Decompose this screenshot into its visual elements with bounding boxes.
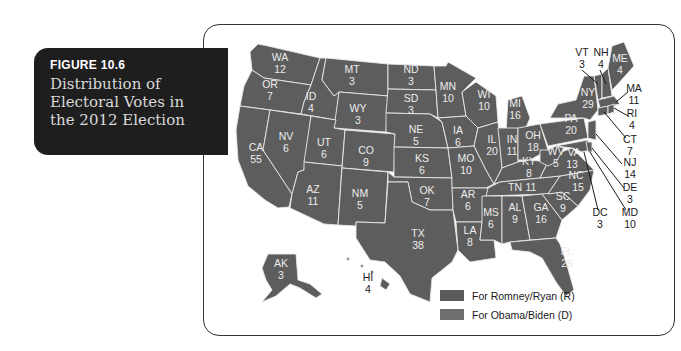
- svg-text:3: 3: [579, 58, 585, 70]
- svg-text:VA: VA: [567, 146, 580, 158]
- state-hi-island: [361, 265, 364, 268]
- svg-text:3: 3: [597, 218, 603, 230]
- svg-text:MD: MD: [622, 206, 639, 218]
- svg-text:UT: UT: [317, 136, 332, 148]
- svg-text:MT: MT: [344, 63, 360, 75]
- svg-text:12: 12: [274, 63, 286, 75]
- state-ri: [608, 104, 614, 114]
- svg-text:NY: NY: [581, 86, 596, 98]
- svg-text:FL: FL: [561, 245, 573, 257]
- svg-text:KS: KS: [415, 152, 429, 164]
- svg-text:NH: NH: [593, 46, 608, 58]
- svg-text:8: 8: [526, 167, 532, 179]
- legend-swatch-republican: [440, 290, 464, 301]
- svg-text:ME: ME: [612, 52, 628, 64]
- svg-text:HI: HI: [363, 271, 374, 283]
- svg-text:MI: MI: [509, 97, 521, 109]
- svg-text:CO: CO: [358, 144, 374, 156]
- svg-text:MS: MS: [483, 206, 499, 218]
- svg-text:3: 3: [355, 114, 361, 126]
- svg-text:13: 13: [566, 158, 578, 170]
- svg-text:LA: LA: [464, 224, 477, 236]
- svg-text:DC: DC: [592, 206, 608, 218]
- legend-item-romney: For Romney/Ryan (R): [440, 286, 575, 305]
- svg-text:CA: CA: [249, 141, 264, 153]
- svg-text:4: 4: [617, 64, 623, 76]
- svg-text:11: 11: [507, 145, 518, 157]
- svg-text:20: 20: [565, 124, 577, 136]
- svg-text:10: 10: [460, 164, 472, 176]
- svg-text:IA: IA: [453, 124, 463, 136]
- leader-line-de: [592, 148, 624, 188]
- svg-text:IN: IN: [507, 133, 518, 145]
- svg-text:6: 6: [455, 136, 461, 148]
- svg-text:GA: GA: [533, 201, 548, 213]
- svg-text:3: 3: [278, 269, 284, 281]
- svg-text:MN: MN: [440, 80, 456, 92]
- state-ak: [262, 254, 322, 302]
- state-hi-island: [347, 258, 350, 261]
- svg-text:38: 38: [412, 239, 424, 251]
- svg-text:NM: NM: [352, 187, 368, 199]
- us-electoral-map: WA12 OR7 CA55 ID4 NV6 MT3 WY3 UT6 AZ11 C…: [0, 0, 681, 351]
- svg-text:7: 7: [267, 90, 273, 102]
- leader-line-nj: [596, 134, 622, 164]
- svg-text:10: 10: [478, 100, 490, 112]
- svg-text:WV: WV: [548, 145, 565, 157]
- legend-label-republican: For Romney/Ryan (R): [472, 290, 575, 302]
- svg-text:CT: CT: [623, 133, 638, 145]
- svg-text:IL: IL: [488, 133, 497, 145]
- svg-text:6: 6: [465, 200, 471, 212]
- svg-text:AL: AL: [509, 201, 522, 213]
- svg-text:PA: PA: [564, 112, 577, 124]
- svg-text:NE: NE: [409, 123, 424, 135]
- svg-text:OH: OH: [525, 129, 541, 141]
- svg-text:11: 11: [526, 181, 537, 193]
- svg-text:6: 6: [419, 164, 425, 176]
- svg-text:16: 16: [509, 109, 521, 121]
- svg-text:7: 7: [424, 196, 430, 208]
- svg-text:WY: WY: [350, 102, 367, 114]
- svg-text:NC: NC: [568, 169, 584, 181]
- svg-text:3: 3: [627, 193, 633, 205]
- svg-text:9: 9: [512, 213, 518, 225]
- svg-text:MO: MO: [458, 152, 475, 164]
- svg-text:9: 9: [560, 202, 566, 214]
- svg-text:TN: TN: [508, 181, 522, 193]
- svg-text:9: 9: [363, 156, 369, 168]
- svg-text:RI: RI: [627, 107, 638, 119]
- svg-text:3: 3: [408, 104, 414, 116]
- legend-swatch-democrat: [440, 309, 464, 320]
- svg-text:6: 6: [283, 142, 289, 154]
- legend-item-obama: For Obama/Biden (D): [440, 305, 575, 324]
- svg-text:6: 6: [488, 218, 494, 230]
- svg-text:OR: OR: [262, 78, 278, 90]
- svg-text:10: 10: [442, 92, 454, 104]
- svg-text:SC: SC: [556, 190, 571, 202]
- svg-text:18: 18: [527, 141, 539, 153]
- svg-text:VT: VT: [575, 46, 589, 58]
- svg-text:14: 14: [624, 168, 636, 180]
- svg-text:AR: AR: [461, 188, 476, 200]
- svg-text:4: 4: [365, 283, 371, 295]
- state-nj: [588, 120, 596, 140]
- svg-text:MA: MA: [626, 82, 642, 94]
- svg-text:OK: OK: [419, 184, 434, 196]
- svg-text:4: 4: [629, 119, 635, 131]
- svg-text:SD: SD: [404, 92, 419, 104]
- svg-text:WI: WI: [478, 88, 491, 100]
- svg-text:55: 55: [250, 153, 262, 165]
- svg-text:NV: NV: [279, 130, 294, 142]
- svg-text:3: 3: [408, 75, 414, 87]
- state-hi: [380, 278, 390, 290]
- svg-text:5: 5: [553, 157, 559, 169]
- svg-text:15: 15: [572, 181, 584, 193]
- svg-text:8: 8: [467, 236, 473, 248]
- svg-text:29: 29: [561, 257, 573, 269]
- svg-text:WA: WA: [272, 51, 289, 63]
- svg-text:TX: TX: [411, 227, 424, 239]
- svg-text:ID: ID: [306, 90, 317, 102]
- map-legend: For Romney/Ryan (R) For Obama/Biden (D): [440, 286, 575, 324]
- svg-text:5: 5: [413, 135, 419, 147]
- svg-text:11: 11: [308, 195, 319, 207]
